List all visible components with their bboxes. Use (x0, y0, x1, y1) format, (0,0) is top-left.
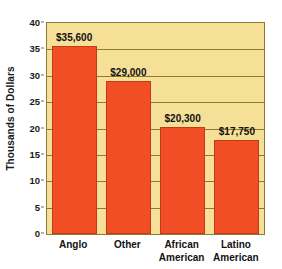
y-tick-label: 15 (29, 148, 40, 159)
bar-chart-figure: Thousands of Dollars 0510152025303540 $3… (0, 0, 282, 269)
y-tick-mark (41, 206, 44, 207)
y-tick-label: 10 (29, 175, 40, 186)
bar-value-label: $20,300 (153, 113, 213, 124)
y-tick-label: 30 (29, 69, 40, 80)
y-tick-mark (41, 48, 44, 49)
x-tick-label: LatinoAmerican (196, 238, 276, 264)
y-tick-label: 35 (29, 43, 40, 54)
y-tick-mark (41, 101, 44, 102)
y-tick-label: 0 (35, 228, 40, 239)
bar-value-label: $29,000 (98, 67, 158, 78)
y-tick-mark (41, 22, 44, 23)
x-tick-label-line: American (196, 251, 276, 264)
bar-value-label: $35,600 (44, 32, 104, 43)
y-tick-mark (41, 127, 44, 128)
bar-value-label: $17,750 (207, 126, 267, 137)
y-tick-label: 40 (29, 17, 40, 28)
bar[interactable] (52, 46, 97, 234)
y-tick-label: 5 (35, 201, 40, 212)
y-tick-label: 20 (29, 122, 40, 133)
y-tick-mark (41, 153, 44, 154)
bar[interactable] (106, 81, 151, 234)
bar[interactable] (214, 140, 259, 234)
y-tick-mark (41, 180, 44, 181)
y-tick-label: 25 (29, 96, 40, 107)
y-axis-title: Thousands of Dollars (0, 0, 20, 236)
y-tick-mark (41, 74, 44, 75)
y-axis-tick-labels: 0510152025303540 (18, 22, 44, 235)
x-axis-tick-labels: AngloOtherAfricanAmericanLatinoAmerican (46, 238, 265, 269)
x-tick-label-line: Latino (196, 238, 276, 251)
y-tick-mark (41, 233, 44, 234)
plot-area: $35,600$29,000$20,300$17,750 (46, 22, 265, 235)
y-axis-title-text: Thousands of Dollars (5, 66, 16, 170)
bar[interactable] (160, 127, 205, 234)
